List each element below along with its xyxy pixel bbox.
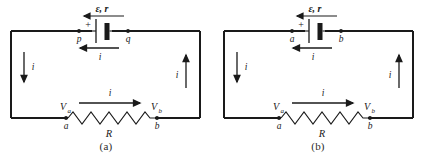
top-node-dot-left-b <box>290 29 294 33</box>
resistor-current-label-b: i <box>322 88 325 98</box>
bottom-node-label-right-b: b <box>368 121 373 131</box>
emf-source-label-a: ε, r <box>96 3 109 14</box>
resistor-current-label-a: i <box>109 88 112 98</box>
potential-label-left-b: V a <box>273 101 285 115</box>
right-branch-current-label-a: i <box>176 70 179 80</box>
battery-polarity-plus-a: + <box>85 19 91 30</box>
figure-root: + ε, r p q i i <box>0 0 425 165</box>
potential-right-subscript-a: b <box>159 107 163 115</box>
battery-negative-plate-b <box>318 23 323 40</box>
right-branch-current-arrow-a <box>183 55 189 88</box>
bottom-node-dot-left-b <box>277 116 281 120</box>
right-branch-current-label-b: i <box>389 70 392 80</box>
potential-left-subscript-b: a <box>281 107 285 115</box>
battery-current-arrow-a <box>80 45 119 51</box>
circuit-panel-a: + ε, r p q i i <box>0 0 212 165</box>
loop-wire-b <box>224 31 413 118</box>
left-branch-current-label-a: i <box>32 62 35 72</box>
top-node-label-right-a: q <box>126 34 131 44</box>
potential-label-left-a: V a <box>60 101 72 115</box>
battery-symbol-b <box>305 19 325 43</box>
bottom-node-dot-right-a <box>155 116 159 120</box>
loop-wire-a <box>11 31 200 118</box>
battery-current-label-a: i <box>99 52 102 62</box>
resistor-zigzag-b <box>281 112 368 124</box>
top-node-label-left-b: a <box>290 34 295 44</box>
potential-label-right-a: V b <box>151 101 163 115</box>
emf-span-arrow-b <box>297 13 337 18</box>
circuit-panel-b: + ε, r a b i i i <box>212 0 424 165</box>
right-branch-current-arrow-b <box>396 55 402 88</box>
panel-caption-b: (b) <box>212 140 424 152</box>
top-node-dot-right-a <box>126 29 130 33</box>
top-node-dot-right-b <box>339 29 343 33</box>
resistor-label-b: R <box>318 128 326 139</box>
bottom-node-dot-right-b <box>368 116 372 120</box>
battery-current-label-b: i <box>312 52 315 62</box>
emf-span-arrow-a <box>84 13 124 18</box>
resistor-current-arrow-b <box>292 100 353 106</box>
bottom-node-label-left-a: a <box>64 121 69 131</box>
bottom-node-dot-left-a <box>64 116 68 120</box>
potential-label-right-b: V b <box>364 101 376 115</box>
bottom-node-label-left-b: a <box>277 121 282 131</box>
potential-right-subscript-b: b <box>372 107 376 115</box>
potential-left-subscript-a: a <box>68 107 72 115</box>
top-node-label-right-b: b <box>339 34 344 44</box>
battery-symbol-a <box>92 19 112 43</box>
left-branch-current-label-b: i <box>245 62 248 72</box>
battery-polarity-plus-b: + <box>298 19 304 30</box>
battery-current-arrow-b <box>293 45 332 51</box>
top-node-dot-left-a <box>77 29 81 33</box>
bottom-node-label-right-a: b <box>155 121 160 131</box>
resistor-zigzag-a <box>68 112 155 124</box>
battery-negative-plate-a <box>105 23 110 40</box>
emf-source-label-b: ε, r <box>309 3 322 14</box>
resistor-label-a: R <box>105 128 113 139</box>
left-branch-current-arrow-a <box>21 52 27 82</box>
resistor-current-arrow-a <box>79 100 140 106</box>
panel-caption-a: (a) <box>0 140 212 152</box>
left-branch-current-arrow-b <box>234 52 240 82</box>
top-node-label-left-a: p <box>76 34 82 44</box>
